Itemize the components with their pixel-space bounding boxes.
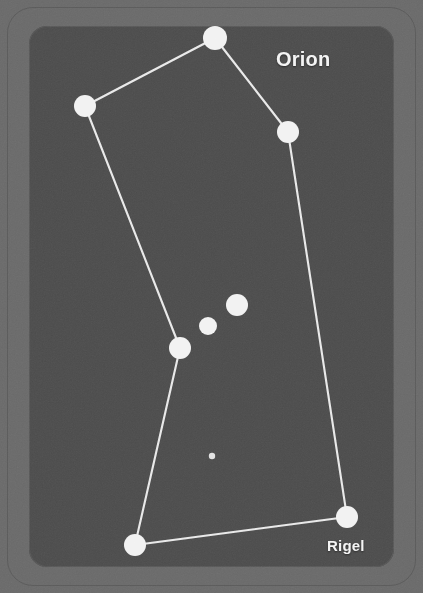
star-bellatrix[interactable] bbox=[74, 95, 96, 117]
star-meissa[interactable] bbox=[277, 121, 299, 143]
rigel-star-label: Rigel bbox=[327, 537, 365, 554]
star-saiph[interactable] bbox=[124, 534, 146, 556]
constellation-line bbox=[85, 38, 215, 106]
star-alnitak[interactable] bbox=[226, 294, 248, 316]
star-mintaka[interactable] bbox=[169, 337, 191, 359]
sky-panel bbox=[29, 26, 394, 567]
star-nebula[interactable] bbox=[209, 453, 215, 459]
constellation-line bbox=[135, 348, 180, 545]
constellation-line-group bbox=[85, 38, 347, 545]
constellation-plot bbox=[29, 26, 394, 567]
star-rigel[interactable] bbox=[336, 506, 358, 528]
constellation-name-label: Orion bbox=[276, 48, 330, 71]
star-group bbox=[74, 26, 358, 556]
constellation-line bbox=[85, 106, 180, 348]
star-alnilam[interactable] bbox=[199, 317, 217, 335]
star-betelgeuse[interactable] bbox=[203, 26, 227, 50]
constellation-line bbox=[288, 132, 347, 517]
constellation-card: Orion Rigel bbox=[0, 0, 423, 593]
constellation-line bbox=[135, 517, 347, 545]
